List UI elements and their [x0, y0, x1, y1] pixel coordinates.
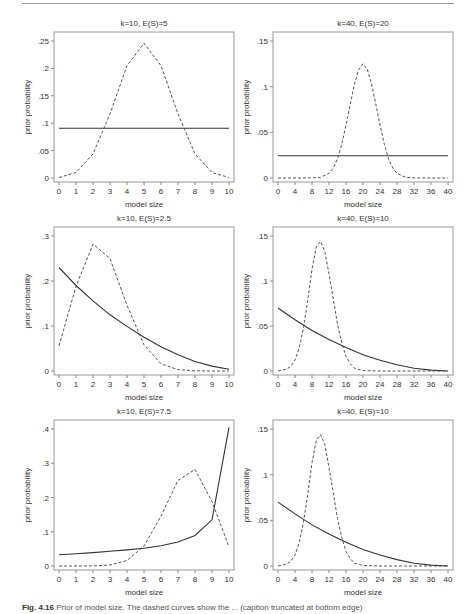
x-tick-label: 40 — [444, 187, 453, 196]
y-tick-label: .3 — [42, 459, 49, 468]
x-tick-label: 0 — [276, 187, 281, 196]
x-tick-label: 40 — [444, 380, 453, 389]
y-tick-label: .1 — [261, 277, 268, 286]
plot-frame — [273, 32, 453, 182]
x-tick-label: 5 — [142, 187, 147, 196]
x-tick-label: 20 — [359, 380, 368, 389]
y-tick-label: 0 — [45, 562, 50, 571]
x-axis-label: model size — [125, 588, 164, 597]
y-tick-label: 0 — [264, 174, 269, 183]
figure-grid: k=10, E(S)=50.05.1.15.2.25012345678910mo… — [0, 0, 472, 614]
x-tick-label: 9 — [210, 575, 215, 584]
chart-panel-3: k=10, E(S)=2.50.1.2.3012345678910model s… — [23, 214, 234, 402]
plot-frame — [54, 420, 234, 570]
y-tick-label: 0 — [45, 367, 50, 376]
x-tick-label: 36 — [427, 380, 436, 389]
dashed-series-line — [278, 241, 448, 371]
y-tick-label: .2 — [42, 277, 49, 286]
x-tick-label: 24 — [376, 187, 385, 196]
x-tick-label: 2 — [91, 380, 96, 389]
x-tick-label: 9 — [210, 380, 215, 389]
y-tick-label: .05 — [38, 147, 50, 156]
chart-panel-1: k=10, E(S)=50.05.1.15.2.25012345678910mo… — [23, 19, 234, 209]
x-tick-label: 6 — [159, 380, 164, 389]
x-tick-label: 5 — [142, 380, 147, 389]
x-tick-label: 10 — [225, 575, 234, 584]
x-tick-label: 0 — [57, 187, 62, 196]
x-tick-label: 3 — [108, 380, 113, 389]
x-tick-label: 6 — [159, 575, 164, 584]
x-tick-label: 0 — [276, 575, 281, 584]
x-tick-label: 12 — [325, 187, 334, 196]
x-tick-label: 8 — [193, 575, 198, 584]
x-tick-label: 28 — [393, 380, 402, 389]
y-tick-label: .1 — [42, 322, 49, 331]
solid-series-line — [278, 502, 448, 566]
x-tick-label: 0 — [57, 380, 62, 389]
chart-title: k=40, E(S)=10 — [337, 407, 389, 416]
dashed-series-line — [59, 43, 229, 177]
x-tick-label: 6 — [159, 187, 164, 196]
y-tick-label: .1 — [261, 83, 268, 92]
x-axis-label: model size — [125, 200, 164, 209]
dashed-series-line — [59, 244, 229, 371]
x-axis-label: model size — [344, 393, 383, 402]
x-tick-label: 1 — [74, 187, 79, 196]
y-tick-label: .3 — [42, 232, 49, 241]
y-tick-label: .4 — [42, 425, 49, 434]
x-tick-label: 24 — [376, 575, 385, 584]
x-tick-label: 12 — [325, 380, 334, 389]
y-tick-label: .15 — [257, 37, 269, 46]
y-tick-label: .1 — [42, 528, 49, 537]
x-tick-label: 7 — [176, 575, 181, 584]
x-tick-label: 40 — [444, 575, 453, 584]
x-tick-label: 28 — [393, 575, 402, 584]
solid-series-line — [59, 427, 229, 554]
dashed-series-line — [59, 469, 229, 566]
y-tick-label: .05 — [257, 128, 269, 137]
x-tick-label: 7 — [176, 380, 181, 389]
y-tick-label: .15 — [257, 232, 269, 241]
x-tick-label: 7 — [176, 187, 181, 196]
x-tick-label: 16 — [342, 575, 351, 584]
x-tick-label: 3 — [108, 187, 113, 196]
y-tick-label: .2 — [42, 494, 49, 503]
y-tick-label: 0 — [45, 174, 50, 183]
x-tick-label: 4 — [125, 187, 130, 196]
chart-title: k=10, E(S)=2.5 — [117, 214, 171, 223]
y-tick-label: .2 — [42, 64, 49, 73]
y-tick-label: 0 — [264, 562, 269, 571]
y-tick-label: .25 — [38, 37, 50, 46]
y-axis-label: prior probability — [23, 80, 32, 135]
x-tick-label: 32 — [410, 380, 419, 389]
x-tick-label: 1 — [74, 575, 79, 584]
x-tick-label: 3 — [108, 575, 113, 584]
x-axis-label: model size — [344, 588, 383, 597]
y-tick-label: .05 — [257, 322, 269, 331]
plot-frame — [273, 420, 453, 570]
x-tick-label: 1 — [74, 380, 79, 389]
figure-caption: Fig. 4.16 Prior of model size. The dashe… — [22, 603, 462, 612]
chart-title: k=10, E(S)=7.5 — [117, 407, 171, 416]
x-axis-label: model size — [125, 393, 164, 402]
x-tick-label: 10 — [225, 380, 234, 389]
x-tick-label: 32 — [410, 575, 419, 584]
x-tick-label: 28 — [393, 187, 402, 196]
x-tick-label: 32 — [410, 187, 419, 196]
chart-panel-5: k=10, E(S)=7.50.1.2.3.4012345678910model… — [23, 407, 234, 597]
y-tick-label: .15 — [257, 425, 269, 434]
chart-panel-4: k=40, E(S)=100.05.1.15048121620242832364… — [242, 214, 453, 402]
y-axis-label: prior probability — [242, 468, 251, 523]
x-tick-label: 0 — [57, 575, 62, 584]
x-tick-label: 4 — [125, 575, 130, 584]
caption-label: Fig. 4.16 — [22, 603, 54, 612]
x-tick-label: 10 — [225, 187, 234, 196]
x-tick-label: 24 — [376, 380, 385, 389]
dashed-series-line — [278, 435, 448, 567]
x-tick-label: 8 — [310, 380, 315, 389]
dashed-series-line — [278, 64, 448, 178]
x-tick-label: 9 — [210, 187, 215, 196]
chart-panel-2: k=40, E(S)=200.05.1.15048121620242832364… — [242, 19, 453, 209]
x-tick-label: 12 — [325, 575, 334, 584]
y-tick-label: .1 — [42, 119, 49, 128]
